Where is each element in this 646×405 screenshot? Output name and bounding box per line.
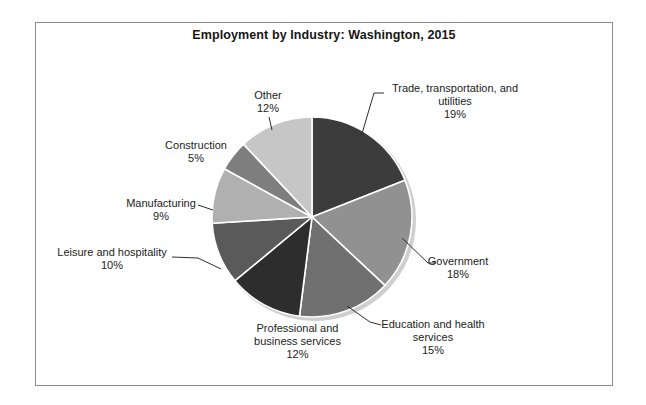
leader-line-trade-transportation-utilities xyxy=(361,93,384,137)
slice-label-manufacturing: Manufacturing 9% xyxy=(111,197,211,223)
slice-label-trade-transportation-utilities: Trade, transportation, and utilities 19% xyxy=(386,82,524,121)
slice-percent: 9% xyxy=(111,210,211,223)
pie-chart-figure: Employment by Industry: Washington, 2015… xyxy=(0,0,646,405)
slice-percent: 12% xyxy=(218,102,318,115)
slice-label-professional-business-services: Professional and business services 12% xyxy=(249,322,346,361)
slice-label-text: Trade, transportation, and utilities xyxy=(392,82,518,107)
slice-label-construction: Construction 5% xyxy=(146,139,246,165)
leader-line-leisure-hospitality xyxy=(172,257,221,269)
slice-label-text: Professional and business services xyxy=(254,322,341,347)
slice-label-government: Government 18% xyxy=(408,255,508,281)
slice-label-text: Construction xyxy=(165,139,227,151)
slice-label-text: Other xyxy=(254,89,282,101)
slice-label-text: Manufacturing xyxy=(126,197,196,209)
slice-percent: 15% xyxy=(377,344,489,357)
slice-percent: 10% xyxy=(50,259,174,272)
slice-percent: 19% xyxy=(386,108,524,121)
slice-label-text: Education and health services xyxy=(381,318,484,343)
slice-percent: 5% xyxy=(146,152,246,165)
slice-percent: 18% xyxy=(408,268,508,281)
slice-label-leisure-hospitality: Leisure and hospitality 10% xyxy=(50,246,174,272)
slice-label-other: Other 12% xyxy=(218,89,318,115)
slice-label-education-health-services: Education and health services 15% xyxy=(377,318,489,357)
slice-label-text: Leisure and hospitality xyxy=(57,246,166,258)
slice-percent: 12% xyxy=(249,348,346,361)
slice-label-text: Government xyxy=(428,255,489,267)
